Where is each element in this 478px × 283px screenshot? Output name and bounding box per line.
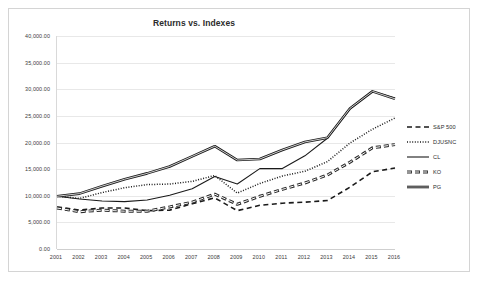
legend-label-cl: CL (433, 154, 440, 160)
legend-label-s-p-500: S&P 500 (433, 124, 456, 130)
x-tick-label: 2004 (117, 254, 129, 260)
legend-item-s-p-500[interactable]: S&P 500 (407, 119, 477, 134)
legend-swatch-ko (407, 167, 429, 177)
x-tick-label: 2009 (230, 254, 242, 260)
x-tick-label: 2001 (50, 254, 62, 260)
x-tick-label: 2011 (275, 254, 287, 260)
y-tick-label: 40,000.00 (25, 33, 50, 39)
x-tick-label: 2013 (320, 254, 332, 260)
legend-item-cl[interactable]: CL (407, 149, 477, 164)
legend-item-pg[interactable]: PG (407, 179, 477, 194)
legend-swatch-djusnc (407, 137, 429, 147)
legend-label-pg: PG (433, 184, 441, 190)
y-tick-label: 25,000.00 (25, 113, 50, 119)
y-tick-label: 30,000.00 (25, 86, 50, 92)
plot-area (56, 36, 394, 249)
legend-swatch-s-p-500 (407, 122, 429, 132)
x-tick-label: 2015 (365, 254, 377, 260)
y-tick-label: 15,000.00 (25, 166, 50, 172)
x-tick-label: 2007 (185, 254, 197, 260)
chart-title: Returns vs. Indexes (9, 18, 379, 28)
chart-container: Returns vs. Indexes 40,000.0035,000.0030… (8, 8, 470, 272)
y-tick-label: 5,000.00 (28, 219, 50, 225)
series-line-s-p-500 (57, 168, 395, 211)
y-tick-label: 35,000.00 (25, 60, 50, 66)
x-tick-label: 2008 (208, 254, 220, 260)
x-tick-label: 2010 (253, 254, 265, 260)
x-tick-label: 2002 (72, 254, 84, 260)
x-tick-label: 2003 (95, 254, 107, 260)
x-tick-label: 2014 (343, 254, 355, 260)
series-line-djusnc (57, 118, 395, 198)
x-tick-label: 2006 (162, 254, 174, 260)
x-tick-label: 2012 (298, 254, 310, 260)
legend-item-ko[interactable]: KO (407, 164, 477, 179)
x-axis: 2001200220032004200520062007200820092010… (56, 252, 394, 268)
y-tick-label: 10,000.00 (25, 193, 50, 199)
x-tick-label: 2016 (388, 254, 400, 260)
legend-label-ko: KO (433, 169, 441, 175)
legend-label-djusnc: DJUSNC (433, 139, 456, 145)
legend-swatch-cl (407, 152, 429, 162)
gridline (57, 249, 395, 250)
y-tick-label: 0.00 (39, 246, 50, 252)
y-axis: 40,000.0035,000.0030,000.0025,000.0020,0… (9, 36, 53, 249)
legend-swatch-pg (407, 182, 429, 192)
series-layer (57, 36, 395, 249)
x-tick-label: 2005 (140, 254, 152, 260)
legend-item-djusnc[interactable]: DJUSNC (407, 134, 477, 149)
y-tick-label: 20,000.00 (25, 140, 50, 146)
chart-legend: S&P 500DJUSNCCLKOPG (407, 119, 477, 194)
